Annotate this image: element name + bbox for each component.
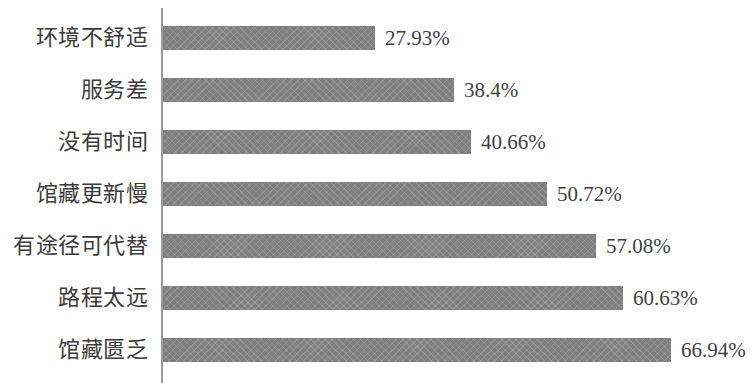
value-label: 60.63%: [633, 286, 698, 310]
bar-fill: [163, 26, 375, 50]
category-label: 环境不舒适: [36, 26, 149, 50]
category-label: 馆藏更新慢: [36, 182, 149, 206]
bar-row: 馆藏更新慢 50.72%: [0, 182, 752, 206]
category-label: 服务差: [81, 78, 149, 102]
value-label: 57.08%: [606, 234, 671, 258]
bar-track: 60.63%: [163, 286, 752, 310]
bar-row: 服务差 38.4%: [0, 78, 752, 102]
category-label: 馆藏匮乏: [58, 338, 148, 362]
bar-row: 路程太远 60.63%: [0, 286, 752, 310]
value-label: 40.66%: [481, 130, 546, 154]
horizontal-bar-chart: 环境不舒适 27.93% 服务差 38.4% 没有时间 40.66% 馆藏更新慢…: [0, 0, 752, 383]
bar-fill: [163, 286, 623, 310]
bar-track: 40.66%: [163, 130, 752, 154]
bar-fill: [163, 338, 671, 362]
category-label: 有途径可代替: [13, 234, 148, 258]
bar-row: 没有时间 40.66%: [0, 130, 752, 154]
bar-fill: [163, 130, 471, 154]
bar-row: 馆藏匮乏 66.94%: [0, 338, 752, 362]
value-label: 27.93%: [385, 26, 450, 50]
value-label: 50.72%: [557, 182, 622, 206]
bar-track: 38.4%: [163, 78, 752, 102]
value-label: 66.94%: [681, 338, 746, 362]
bar-fill: [163, 234, 596, 258]
bar-fill: [163, 78, 454, 102]
bar-track: 27.93%: [163, 26, 752, 50]
bar-fill: [163, 182, 547, 206]
bar-row: 环境不舒适 27.93%: [0, 26, 752, 50]
category-label: 没有时间: [58, 130, 148, 154]
bar-track: 66.94%: [163, 338, 752, 362]
bar-row: 有途径可代替 57.08%: [0, 234, 752, 258]
category-label: 路程太远: [58, 286, 148, 310]
bar-track: 57.08%: [163, 234, 752, 258]
bar-track: 50.72%: [163, 182, 752, 206]
value-label: 38.4%: [464, 78, 518, 102]
